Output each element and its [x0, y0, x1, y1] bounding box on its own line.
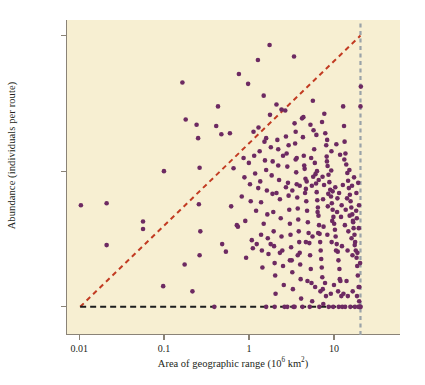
- x-tick-mark: [163, 335, 164, 340]
- x-tick-mark: [79, 335, 80, 340]
- x-tick-mark: [333, 335, 334, 340]
- x-axis-label-main: Area of geographic range (10: [158, 358, 282, 369]
- y-axis-label-wrap: Abundance (individuals per route): [0, 0, 22, 335]
- figure-container: 110100 0.010.1110 Abundance (individuals…: [0, 0, 425, 385]
- x-axis-label: Area of geographic range (106 km2): [66, 356, 400, 369]
- x-tick-mark: [248, 335, 249, 340]
- x-tick-label: 10: [314, 343, 354, 354]
- x-tick-label: 1: [229, 343, 269, 354]
- x-axis-label-close: ): [305, 358, 309, 369]
- x-tick-label: 0.01: [59, 343, 99, 354]
- x-tick-label: 0.1: [144, 343, 184, 354]
- y-axis-label: Abundance (individuals per route): [6, 6, 17, 306]
- x-axis: 0.010.1110: [0, 0, 425, 360]
- x-axis-label-unit: km: [285, 358, 301, 369]
